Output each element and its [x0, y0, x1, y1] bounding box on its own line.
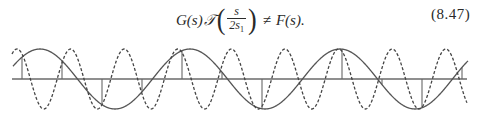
left-paren: (	[217, 5, 226, 35]
aliasing-figure	[0, 40, 480, 124]
right-paren: )	[248, 5, 257, 35]
fraction: s 2s1	[227, 5, 246, 35]
not-equal-sign: ≠	[263, 12, 271, 29]
equation-lhs-function: G(s)	[176, 12, 203, 29]
equation-8-47: G(s) 𝒯 ( s 2s1 ) ≠ F(s).	[176, 2, 305, 38]
fraction-denominator: 2s1	[227, 18, 246, 35]
equation-number: (8.47)	[431, 6, 470, 23]
denominator-base: 2s	[229, 18, 240, 32]
fraction-numerator: s	[232, 5, 241, 18]
equation-rhs: F(s).	[276, 12, 305, 29]
denominator-subscript: 1	[240, 25, 244, 34]
fourier-operator-symbol: 𝒯	[204, 11, 215, 29]
